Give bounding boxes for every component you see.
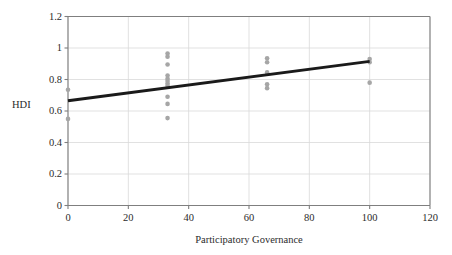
data-point <box>66 87 71 92</box>
x-tick-label: 0 <box>65 213 70 224</box>
data-point <box>165 54 170 59</box>
y-tick-label: 0.2 <box>28 169 62 180</box>
x-tick-label: 80 <box>304 213 315 224</box>
data-point <box>265 56 270 61</box>
trend-line <box>68 61 370 100</box>
data-point <box>165 95 170 100</box>
data-point <box>367 80 372 85</box>
x-tick-label: 100 <box>362 213 378 224</box>
y-tick-label: 0.6 <box>28 106 62 117</box>
y-tick-label: 0.8 <box>28 74 62 85</box>
x-axis-title: Participatory Governance <box>195 234 303 245</box>
data-point <box>265 86 270 91</box>
data-point <box>165 62 170 67</box>
x-tick-label: 20 <box>123 213 134 224</box>
x-tick-label: 120 <box>422 213 438 224</box>
data-point <box>265 82 270 87</box>
grid-lines <box>68 17 430 206</box>
y-axis-title: HDI <box>12 99 31 110</box>
y-tick-label: 0 <box>28 200 62 211</box>
x-tick-label: 60 <box>244 213 255 224</box>
plot-frame <box>65 17 431 210</box>
x-tick-label: 40 <box>183 213 194 224</box>
data-point <box>165 116 170 121</box>
scatter-chart-figure: 00.20.40.60.811.2020406080100120 HDI Par… <box>0 0 452 255</box>
data-point <box>66 117 71 122</box>
y-tick-label: 0.4 <box>28 137 62 148</box>
trend-line-segment <box>68 61 370 100</box>
data-point <box>165 102 170 107</box>
y-tick-label: 1 <box>28 43 62 54</box>
y-tick-label: 1.2 <box>28 11 62 22</box>
data-point <box>265 60 270 65</box>
